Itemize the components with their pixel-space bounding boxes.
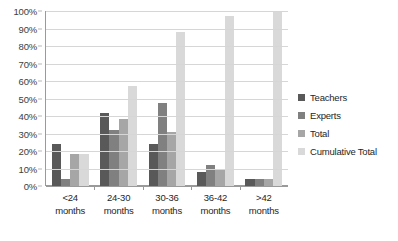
bar xyxy=(61,179,70,186)
y-axis-tick-mark xyxy=(38,116,42,117)
bar xyxy=(197,172,206,186)
gridline xyxy=(46,64,288,65)
x-axis-category-label: 36-42months xyxy=(191,191,239,217)
gridline xyxy=(46,169,288,170)
bar xyxy=(215,170,224,186)
gridline xyxy=(46,81,288,82)
y-axis-tick-label: 50% xyxy=(19,93,37,104)
legend-item[interactable]: Cumulative Total xyxy=(298,142,396,160)
gridline xyxy=(46,99,288,100)
x-axis-category-label: <24months xyxy=(46,191,94,217)
x-axis-category-label-line2: months xyxy=(94,204,142,217)
x-axis-category-label-line1: 30-36 xyxy=(143,191,191,204)
y-axis-tick-mark xyxy=(38,46,42,47)
x-axis-category-label-line2: months xyxy=(46,204,94,217)
y-axis-tick-label: 60% xyxy=(19,76,37,87)
legend-label: Experts xyxy=(310,110,341,121)
bar xyxy=(245,179,254,186)
y-axis-tick-label: 90% xyxy=(19,23,37,34)
gridline xyxy=(46,186,288,187)
y-axis-tick-mark xyxy=(38,151,42,152)
x-axis-category-label-line2: months xyxy=(191,204,239,217)
y-axis-tick-mark xyxy=(38,81,42,82)
legend-item[interactable]: Teachers xyxy=(298,88,396,106)
x-axis: <24months24-30months30-36months36-42mont… xyxy=(46,191,288,217)
y-axis-tick-mark xyxy=(38,11,42,12)
plot-area xyxy=(46,11,288,186)
legend-swatch-icon xyxy=(298,148,305,155)
gridline xyxy=(46,134,288,135)
x-axis-category-label-line1: >42 xyxy=(240,191,288,204)
gridline xyxy=(46,46,288,47)
y-axis-tick-label: 40% xyxy=(19,111,37,122)
x-axis-category-label: 30-36months xyxy=(143,191,191,217)
gridline xyxy=(46,29,288,30)
legend-label: Cumulative Total xyxy=(310,146,377,157)
legend-label: Teachers xyxy=(310,92,347,103)
x-axis-category-label-line1: 24-30 xyxy=(94,191,142,204)
bar xyxy=(128,86,137,186)
y-axis-tick-label: 30% xyxy=(19,128,37,139)
bar xyxy=(119,119,128,186)
legend-item[interactable]: Experts xyxy=(298,106,396,124)
y-axis-tick-mark xyxy=(38,133,42,134)
bar xyxy=(167,132,176,186)
y-axis-tick-mark xyxy=(38,63,42,64)
y-axis-tick-label: 0% xyxy=(24,181,37,192)
x-axis-category-label-line2: months xyxy=(240,204,288,217)
y-axis-tick-mark xyxy=(38,28,42,29)
y-axis-tick-label: 20% xyxy=(19,146,37,157)
legend-swatch-icon xyxy=(298,130,305,137)
chart-legend: TeachersExpertsTotalCumulative Total xyxy=(298,88,396,160)
y-axis-tick-label: 80% xyxy=(19,41,37,52)
legend-swatch-icon xyxy=(298,94,305,101)
bar xyxy=(109,130,118,186)
y-axis: 0%10%20%30%40%50%60%70%80%90%100% xyxy=(0,11,42,186)
legend-swatch-icon xyxy=(298,112,305,119)
bar xyxy=(176,32,185,186)
x-axis-category-label-line1: <24 xyxy=(46,191,94,204)
y-axis-tick-label: 10% xyxy=(19,163,37,174)
bar xyxy=(225,16,234,186)
bar xyxy=(264,179,273,186)
y-axis-tick-mark xyxy=(38,168,42,169)
bar xyxy=(100,113,109,186)
bar xyxy=(255,179,264,186)
bar-chart: 0%10%20%30%40%50%60%70%80%90%100% <24mon… xyxy=(0,0,398,241)
y-axis-tick-mark xyxy=(38,186,42,187)
legend-label: Total xyxy=(310,128,329,139)
x-axis-category-label-line2: months xyxy=(143,204,191,217)
x-axis-category-label-line1: 36-42 xyxy=(191,191,239,204)
y-axis-tick-label: 70% xyxy=(19,58,37,69)
y-axis-tick-mark xyxy=(38,98,42,99)
y-axis-tick-label: 100% xyxy=(14,6,38,17)
gridline xyxy=(46,11,288,12)
gridline xyxy=(46,151,288,152)
x-axis-category-label: >42months xyxy=(240,191,288,217)
legend-item[interactable]: Total xyxy=(298,124,396,142)
x-axis-category-label: 24-30months xyxy=(94,191,142,217)
gridline xyxy=(46,116,288,117)
